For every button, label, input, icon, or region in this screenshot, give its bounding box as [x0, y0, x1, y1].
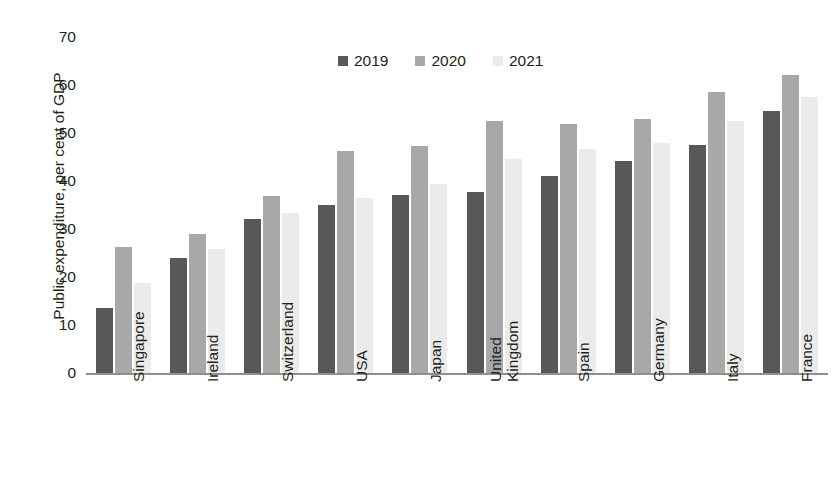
y-tick-30: 30: [32, 220, 76, 238]
y-axis-tick-labels: 706050403020100: [24, 0, 76, 502]
y-tick-50: 50: [32, 124, 76, 142]
bar-group-japan: [383, 37, 457, 373]
bar-group-spain: [531, 37, 605, 373]
x-label-cell: UnitedKingdom: [457, 378, 531, 502]
bar-italy-2021[interactable]: [727, 121, 744, 373]
bar-united-kingdom-2019[interactable]: [467, 192, 484, 373]
x-tick-label-usa: USA: [353, 350, 370, 382]
x-tick-label-line: Italy: [724, 354, 741, 382]
bar-group-italy: [680, 37, 754, 373]
x-label-cell: Germany: [605, 378, 679, 502]
x-tick-label-line: Spain: [575, 342, 592, 382]
x-label-cell: Japan: [383, 378, 457, 502]
bar-usa-2019[interactable]: [318, 205, 335, 373]
x-tick-label-line: Ireland: [204, 335, 221, 382]
bar-italy-2020[interactable]: [708, 92, 725, 373]
x-tick-label-germany: Germany: [650, 318, 667, 382]
x-label-cell: France: [754, 378, 828, 502]
x-label-cell: Singapore: [86, 378, 160, 502]
bar-japan-2019[interactable]: [392, 195, 409, 373]
x-label-cell: Italy: [680, 378, 754, 502]
bar-france-2021[interactable]: [801, 97, 818, 373]
x-tick-label-spain: Spain: [575, 342, 592, 382]
x-tick-label-line: Singapore: [130, 311, 147, 382]
x-tick-label-line: France: [798, 334, 815, 382]
x-tick-label-line: Switzerland: [279, 302, 296, 382]
bar-group-switzerland: [234, 37, 308, 373]
bar-italy-2019[interactable]: [689, 145, 706, 373]
bar-group-usa: [309, 37, 383, 373]
x-tick-label-japan: Japan: [427, 340, 444, 382]
y-tick-70: 70: [32, 28, 76, 46]
bar-switzerland-2020[interactable]: [263, 196, 280, 373]
x-tick-label-line: Germany: [650, 318, 667, 382]
x-tick-label-switzerland: Switzerland: [279, 302, 296, 382]
x-tick-label-singapore: Singapore: [130, 311, 147, 382]
x-tick-label-line: USA: [353, 350, 370, 382]
bar-group-singapore: [86, 37, 160, 373]
bar-spain-2019[interactable]: [541, 176, 558, 373]
bar-germany-2020[interactable]: [634, 119, 651, 373]
bar-spain-2020[interactable]: [560, 124, 577, 373]
bar-chart: Public expenditure, per cent of GDP 7060…: [0, 0, 835, 502]
bar-france-2020[interactable]: [782, 75, 799, 373]
bar-switzerland-2019[interactable]: [244, 219, 261, 373]
bar-group-ireland: [160, 37, 234, 373]
bar-usa-2020[interactable]: [337, 151, 354, 373]
x-tick-label-united-kingdom: UnitedKingdom: [487, 321, 521, 382]
bar-group-germany: [605, 37, 679, 373]
bar-usa-2021[interactable]: [356, 198, 373, 373]
plot-area: [86, 37, 828, 373]
x-axis-tick-labels: SingaporeIrelandSwitzerlandUSAJapanUnite…: [86, 378, 828, 502]
x-tick-label-ireland: Ireland: [204, 335, 221, 382]
bar-groups: [86, 37, 828, 373]
bar-ireland-2019[interactable]: [170, 258, 187, 373]
x-tick-label-italy: Italy: [724, 354, 741, 382]
y-tick-40: 40: [32, 172, 76, 190]
y-tick-60: 60: [32, 76, 76, 94]
x-label-cell: Switzerland: [234, 378, 308, 502]
x-label-cell: Ireland: [160, 378, 234, 502]
x-tick-label-france: France: [798, 334, 815, 382]
bar-spain-2021[interactable]: [579, 149, 596, 373]
bar-singapore-2019[interactable]: [96, 308, 113, 373]
y-tick-0: 0: [32, 364, 76, 382]
y-tick-10: 10: [32, 316, 76, 334]
y-tick-20: 20: [32, 268, 76, 286]
bar-germany-2019[interactable]: [615, 161, 632, 373]
x-label-cell: USA: [309, 378, 383, 502]
bar-group-france: [754, 37, 828, 373]
x-axis-line: [86, 373, 828, 375]
bar-france-2019[interactable]: [763, 111, 780, 373]
x-tick-label-line: United: [487, 337, 504, 382]
x-tick-label-line: Kingdom: [504, 321, 521, 382]
bar-japan-2020[interactable]: [411, 146, 428, 373]
x-tick-label-line: Japan: [427, 340, 444, 382]
x-label-cell: Spain: [531, 378, 605, 502]
